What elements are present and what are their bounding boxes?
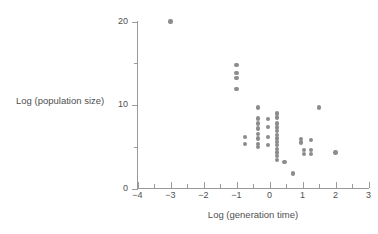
y-axis-title: Log (population size) [16, 95, 104, 107]
data-point [234, 71, 238, 75]
data-point [243, 142, 247, 146]
data-point [299, 140, 303, 144]
data-point [266, 117, 270, 121]
data-point [302, 152, 306, 156]
scatter-plot-figure: −4−3−2−1012301020 Log (generation time) … [0, 0, 378, 234]
data-point [291, 171, 295, 175]
data-point [333, 150, 337, 154]
data-point [275, 115, 279, 119]
data-point [256, 116, 260, 120]
data-point [266, 125, 270, 129]
data-point [309, 152, 313, 156]
data-point [234, 63, 238, 67]
data-point [317, 105, 321, 109]
data-point [256, 136, 260, 140]
data-points-layer [0, 0, 378, 234]
data-point [234, 87, 238, 91]
x-axis-title: Log (generation time) [137, 209, 369, 221]
data-point [275, 158, 279, 162]
data-point [243, 135, 247, 139]
data-point [282, 160, 286, 164]
data-point [309, 138, 313, 142]
data-point [168, 19, 172, 23]
data-point [234, 76, 238, 80]
data-point [266, 143, 270, 147]
data-point [256, 105, 260, 109]
data-point [266, 135, 270, 139]
data-point [256, 126, 260, 130]
data-point [256, 121, 260, 125]
data-point [256, 145, 260, 149]
